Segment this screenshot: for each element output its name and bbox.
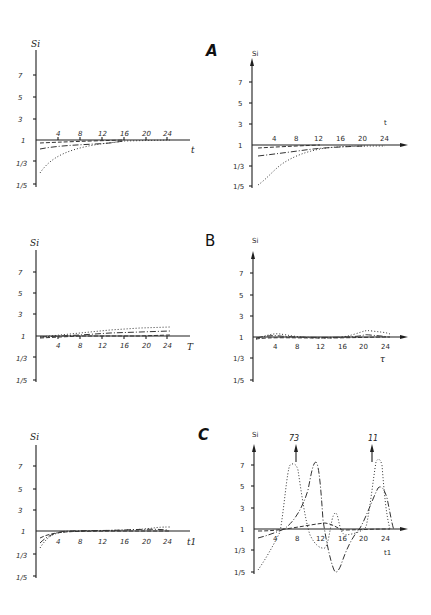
panel-c-left: Si t1 7 5 3 1 1/3 1/5 4 8 12 16 20 24 C: [16, 426, 209, 582]
svg-text:12: 12: [98, 130, 107, 138]
svg-text:12: 12: [314, 135, 323, 143]
svg-text:1/3: 1/3: [16, 552, 27, 560]
y-ticks: 7 5 3 1 1/3 1/5: [233, 270, 253, 385]
svg-text:1: 1: [21, 137, 25, 145]
svg-text:16: 16: [120, 130, 129, 138]
panel-b-right: Si τ 7 5 3 1 1/3 1/5 4 8 12 16 20 24: [233, 237, 408, 385]
svg-text:1: 1: [240, 526, 244, 534]
y-axis-label: Si: [31, 39, 40, 49]
y-axis-label: Si: [252, 50, 258, 58]
svg-text:8: 8: [78, 130, 83, 138]
x-axis-label: t: [384, 119, 387, 127]
svg-text:3: 3: [238, 121, 242, 129]
svg-text:8: 8: [294, 135, 298, 143]
series-dash-dot: [258, 462, 394, 572]
svg-text:7: 7: [18, 463, 23, 471]
svg-text:1/5: 1/5: [16, 377, 28, 385]
svg-text:1/5: 1/5: [234, 569, 245, 577]
series-dotted: [258, 459, 390, 570]
svg-text:20: 20: [142, 342, 151, 350]
svg-text:16: 16: [120, 538, 129, 546]
svg-text:7: 7: [18, 72, 23, 80]
svg-text:4: 4: [56, 538, 60, 546]
peak-label-11: 11: [368, 434, 378, 443]
svg-text:1: 1: [238, 142, 242, 150]
figure: Si t 7 5 3 1 1/3 1/5 4 8 12 16 20 24 A: [0, 0, 431, 615]
y-axis-label: Si: [252, 237, 258, 245]
x-ticks: 4 8 12 16 20 24: [56, 336, 172, 350]
y-axis-arrow-icon: [252, 444, 256, 452]
svg-text:5: 5: [240, 483, 244, 491]
svg-text:1/5: 1/5: [233, 183, 244, 191]
x-axis-label: t: [191, 145, 195, 155]
panel-b-left: Si T 7 5 3 1 1/3 1/5 4 8 12 16 20 24 B: [16, 232, 215, 385]
y-ticks: 7 5 3 1 1/3 1/5: [233, 79, 252, 191]
svg-text:5: 5: [18, 486, 23, 494]
y-axis-label: Si: [252, 431, 258, 439]
svg-text:8: 8: [78, 538, 83, 546]
svg-text:16: 16: [338, 535, 347, 543]
svg-text:3: 3: [239, 313, 243, 321]
y-axis-label: Si: [30, 238, 39, 248]
y-axis-arrow-icon: [250, 58, 254, 66]
peak-label-73: 73: [289, 434, 299, 443]
x-ticks: 4 8 12 16 20 24: [56, 130, 172, 140]
svg-text:4: 4: [272, 135, 277, 143]
svg-text:3: 3: [18, 507, 22, 515]
x-axis-label: t1: [187, 537, 196, 547]
y-ticks: 7 5 3 1 1/3 1/5: [16, 463, 36, 582]
arrow-up-icon: [294, 444, 298, 452]
svg-text:24: 24: [381, 343, 390, 351]
series-dash-dot: [258, 146, 365, 156]
svg-text:20: 20: [359, 343, 368, 351]
svg-text:4: 4: [56, 342, 60, 350]
svg-text:1/5: 1/5: [16, 574, 28, 582]
svg-text:20: 20: [359, 535, 368, 543]
x-axis-arrow-icon: [400, 143, 408, 147]
panel-letter-b: B: [205, 232, 215, 250]
svg-text:8: 8: [78, 342, 83, 350]
svg-text:1/3: 1/3: [16, 160, 27, 168]
x-ticks: 4 8 12 16 20 24: [273, 535, 390, 543]
svg-text:4: 4: [56, 130, 60, 138]
svg-text:24: 24: [163, 130, 172, 138]
svg-text:24: 24: [381, 535, 390, 543]
panel-a-left: Si t 7 5 3 1 1/3 1/5 4 8 12 16 20 24 A: [16, 39, 218, 190]
svg-text:1: 1: [239, 334, 243, 342]
svg-text:12: 12: [316, 343, 325, 351]
x-axis-arrow-icon: [400, 527, 408, 531]
panel-c-right: Si t1 7 5 3 1 1/3 1/5 4 8 12 16 20 24: [234, 431, 408, 577]
x-axis-label: t1: [384, 549, 391, 557]
x-axis-arrow-icon: [400, 335, 408, 339]
svg-text:1/3: 1/3: [16, 355, 27, 363]
svg-text:5: 5: [18, 290, 23, 298]
svg-text:16: 16: [336, 135, 345, 143]
arrow-up-icon: [370, 444, 374, 452]
y-ticks: 7 5 3 1 1/3 1/5: [234, 462, 254, 577]
panel-a-right: Si t 7 5 3 1 1/3 1/5 4 8 12 16 20 24: [233, 50, 408, 191]
svg-text:5: 5: [18, 94, 23, 102]
x-axis-label: τ: [380, 354, 386, 364]
panel-letter-c: C: [198, 426, 209, 444]
series-dotted: [40, 140, 170, 173]
svg-text:4: 4: [273, 343, 278, 351]
y-ticks: 7 5 3 1 1/3 1/5: [16, 72, 36, 190]
svg-text:1/3: 1/3: [233, 163, 244, 171]
svg-text:5: 5: [238, 100, 242, 108]
svg-text:1: 1: [21, 528, 25, 536]
x-ticks: 4 8 12 16 20 24: [272, 135, 389, 143]
svg-text:1/5: 1/5: [233, 377, 244, 385]
svg-text:24: 24: [380, 135, 389, 143]
series-dotted: [258, 146, 385, 185]
svg-text:3: 3: [18, 311, 22, 319]
svg-text:1/5: 1/5: [16, 182, 28, 190]
svg-text:20: 20: [142, 130, 151, 138]
x-ticks: 4 8 12 16 20 24: [273, 343, 390, 351]
svg-text:24: 24: [163, 538, 172, 546]
x-ticks: 4 8 12 16 20 24: [56, 538, 172, 546]
svg-text:7: 7: [240, 462, 244, 470]
svg-text:5: 5: [239, 292, 243, 300]
svg-text:12: 12: [98, 342, 107, 350]
svg-text:8: 8: [295, 535, 299, 543]
x-axis-label: T: [187, 342, 194, 352]
